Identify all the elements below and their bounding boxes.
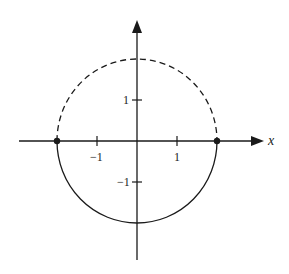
y-axis: [132, 20, 142, 260]
y-tick-label-pos1: 1: [123, 93, 129, 107]
left-endpoint-dot: [54, 138, 60, 144]
y-axis-arrow-icon: [132, 20, 142, 33]
x-tick-label-pos1: 1: [174, 150, 180, 164]
right-endpoint-dot: [214, 138, 220, 144]
y-tick-label-neg1: −1: [117, 175, 130, 189]
x-tick-label-neg1: −1: [90, 150, 103, 164]
circle-diagram: −1 1 1 −1 x: [0, 0, 289, 274]
x-axis-arrow-icon: [251, 136, 264, 146]
x-axis-label: x: [267, 133, 275, 148]
